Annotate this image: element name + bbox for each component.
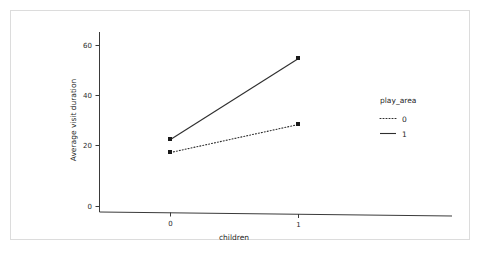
- legend-item-0[interactable]: 0: [380, 115, 407, 124]
- series-1-point-x0: [168, 137, 172, 141]
- x-axis-title: children: [219, 233, 249, 242]
- series-0-line: [171, 125, 299, 153]
- legend-title: play_area: [380, 96, 416, 105]
- y-tick-label-60: 60: [83, 42, 92, 50]
- series-1-point-x1: [296, 56, 300, 60]
- y-tick-label-20: 20: [83, 142, 92, 150]
- legend-item-1[interactable]: 1: [380, 130, 407, 139]
- legend-label-0: 0: [402, 115, 407, 124]
- legend: play_area 0 1: [380, 96, 416, 139]
- legend-label-1: 1: [402, 130, 407, 139]
- series-0-point-x1: [296, 122, 300, 126]
- interaction-plot: 60 40 20 0 Average visit duration 0 1 ch…: [0, 0, 485, 255]
- chart-svg: 60 40 20 0 Average visit duration 0 1 ch…: [0, 0, 485, 255]
- x-axis-line: [100, 212, 453, 216]
- y-tick-label-0: 0: [88, 203, 92, 211]
- y-axis-title: Average visit duration: [69, 78, 78, 161]
- x-tick-label-0: 0: [168, 220, 172, 228]
- x-tick-label-1: 1: [296, 221, 300, 229]
- series-1-line: [171, 59, 299, 140]
- y-tick-label-40: 40: [83, 92, 92, 100]
- series-0-point-x0: [168, 150, 172, 154]
